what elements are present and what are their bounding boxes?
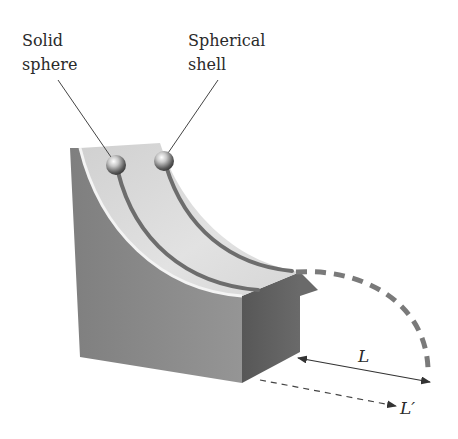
spherical-shell-label-line2: shell: [188, 55, 226, 74]
spherical-shell: [154, 151, 174, 171]
distance-L-prime-label: L′: [399, 398, 415, 418]
spherical-shell-leader: [166, 80, 218, 156]
ramp-diagram: Solid sphere Spherical shell L L′: [0, 0, 458, 439]
solid-sphere-label-line1: Solid: [22, 31, 63, 50]
diagram: Solid sphere Spherical shell L L′: [0, 0, 458, 439]
distance-L-label: L: [357, 346, 369, 366]
distance-L-prime-arrow: [260, 380, 396, 406]
solid-sphere: [106, 155, 126, 175]
ramp-end-lip: [300, 272, 318, 296]
solid-sphere-label-line2: sphere: [22, 55, 77, 74]
spherical-shell-label-line1: Spherical: [188, 31, 265, 50]
